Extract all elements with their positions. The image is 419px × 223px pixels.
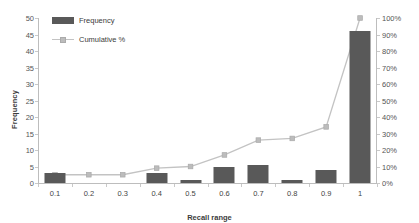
y2-axis-tick-label: 50% [382, 96, 397, 105]
bar [146, 173, 167, 183]
y-axis-tick-label: 5 [30, 162, 34, 171]
y2-axis-tick-label: 90% [382, 30, 397, 39]
cumulative-marker [358, 16, 363, 21]
x-axis-tick-mark [241, 184, 242, 187]
y-axis-tick-label: 0 [30, 179, 34, 188]
cumulative-marker [222, 153, 227, 158]
y-axis-tick-label: 25 [26, 96, 34, 105]
x-axis-tick-mark [38, 184, 39, 187]
y-axis-title: Frequency [10, 70, 19, 150]
y-axis-tick-label: 40 [26, 47, 34, 56]
y-axis-tick-mark [35, 101, 38, 102]
cumulative-marker [256, 138, 261, 143]
cumulative-marker [154, 166, 159, 171]
y-axis-tick-mark [35, 84, 38, 85]
y-axis-tick-label: 30 [26, 80, 34, 89]
bar [180, 180, 201, 183]
y2-axis-tick-label: 0% [382, 179, 393, 188]
x-axis-tick-label: 0.7 [253, 189, 263, 198]
y2-axis-tick-mark [377, 150, 380, 151]
y2-axis-tick-mark [377, 18, 380, 19]
x-axis-tick-mark [377, 184, 378, 187]
cumulative-line [55, 18, 360, 175]
y2-axis-tick-mark [377, 134, 380, 135]
cumulative-marker [120, 172, 125, 177]
y-axis-tick-label: 50 [26, 14, 34, 23]
cumulative-line-layer [38, 18, 377, 184]
x-axis-tick-mark [309, 184, 310, 187]
cumulative-marker [188, 164, 193, 169]
cumulative-marker [290, 136, 295, 141]
bar [316, 170, 337, 183]
y-axis-tick-label: 10 [26, 146, 34, 155]
x-axis-tick-mark [208, 184, 209, 187]
y-axis-tick-label: 15 [26, 129, 34, 138]
y2-axis-tick-mark [377, 68, 380, 69]
y-axis-tick-mark [35, 35, 38, 36]
x-axis-tick-label: 0.1 [50, 189, 60, 198]
y2-axis-tick-mark [377, 101, 380, 102]
x-axis-tick-label: 0.2 [84, 189, 94, 198]
x-axis-tick-label: 0.6 [219, 189, 229, 198]
y-axis-tick-mark [35, 134, 38, 135]
y-axis-tick-label: 35 [26, 63, 34, 72]
y2-axis-tick-mark [377, 84, 380, 85]
y2-axis-tick-mark [377, 167, 380, 168]
x-axis-tick-mark [106, 184, 107, 187]
y-axis-tick-mark [35, 167, 38, 168]
y2-axis-tick-mark [377, 117, 380, 118]
bar [44, 173, 65, 183]
x-axis-tick-mark [343, 184, 344, 187]
y2-axis-tick-label: 80% [382, 47, 397, 56]
y2-axis-tick-mark [377, 51, 380, 52]
y2-axis-tick-label: 10% [382, 162, 397, 171]
y2-axis-tick-label: 70% [382, 63, 397, 72]
bar [282, 180, 303, 183]
bar [214, 167, 235, 184]
y2-axis-tick-label: 40% [382, 113, 397, 122]
y-axis-tick-label: 20 [26, 113, 34, 122]
y-axis-tick-mark [35, 18, 38, 19]
y2-axis-tick-label: 30% [382, 129, 397, 138]
chart-root: Frequency Frequency Cumulative % 0510152… [0, 0, 419, 223]
x-axis-tick-label: 0.9 [321, 189, 331, 198]
x-axis-tick-label: 0.4 [151, 189, 161, 198]
cumulative-marker [324, 125, 329, 130]
y-axis-tick-label: 45 [26, 30, 34, 39]
y2-axis-tick-mark [377, 35, 380, 36]
plot-area: 051015202530354045500%10%20%30%40%50%60%… [38, 18, 377, 184]
x-axis-tick-mark [140, 184, 141, 187]
bar [350, 31, 371, 183]
x-axis-tick-label: 0.5 [185, 189, 195, 198]
x-axis-tick-mark [72, 184, 73, 187]
y-axis-tick-mark [35, 51, 38, 52]
x-axis-tick-label: 0.3 [118, 189, 128, 198]
x-axis-title: Recall range [0, 213, 419, 222]
cumulative-marker [87, 172, 92, 177]
y2-axis-tick-label: 20% [382, 146, 397, 155]
x-axis-tick-label: 0.8 [287, 189, 297, 198]
y-axis-tick-mark [35, 68, 38, 69]
bar [248, 165, 269, 183]
y2-axis-tick-label: 100% [382, 14, 401, 23]
x-axis-tick-mark [174, 184, 175, 187]
y2-axis-tick-label: 60% [382, 80, 397, 89]
x-axis-tick-label: 1 [358, 189, 362, 198]
x-axis-tick-mark [275, 184, 276, 187]
y-axis-tick-mark [35, 117, 38, 118]
y-axis-tick-mark [35, 150, 38, 151]
